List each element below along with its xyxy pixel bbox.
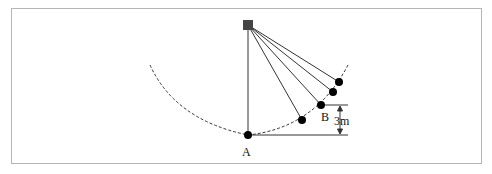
- swing-arc: [150, 65, 348, 135]
- bob-b: [317, 101, 325, 109]
- bob-3: [329, 88, 337, 96]
- bob-a: [244, 131, 252, 139]
- label-height: 3m: [334, 114, 350, 128]
- pivot-block: [243, 20, 253, 30]
- bob-1: [298, 116, 306, 124]
- label-b: B: [321, 110, 329, 124]
- bob-4: [335, 78, 343, 86]
- label-a: A: [242, 145, 251, 159]
- bobs: [244, 78, 343, 139]
- pendulum-diagram: A B 3m: [0, 0, 492, 174]
